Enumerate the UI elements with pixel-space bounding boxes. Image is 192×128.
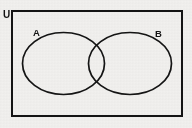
set-a-label: A [33,27,40,38]
set-b-label: B [155,28,162,39]
set-a-ellipse [23,33,105,95]
venn-diagram: U A B [0,0,192,128]
universal-set-label: U [3,9,10,20]
diagram-canvas: U A B [0,0,192,128]
set-b-ellipse [89,33,172,95]
